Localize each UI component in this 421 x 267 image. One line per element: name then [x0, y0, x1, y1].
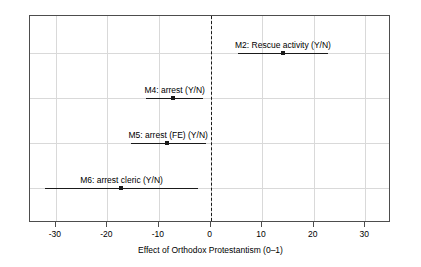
x-tick-label: 0: [207, 229, 212, 239]
x-tick-label: -10: [152, 229, 164, 239]
x-tick-label: 30: [359, 229, 368, 239]
x-tick-mark: [261, 222, 262, 227]
gridline-vertical: [56, 16, 57, 221]
x-tick-mark: [313, 222, 314, 227]
x-tick-mark: [158, 222, 159, 227]
coefficient-plot-figure: M2: Rescue activity (Y/N)M4: arrest (Y/N…: [0, 0, 421, 267]
x-tick-mark: [210, 222, 211, 227]
x-tick-label: 10: [256, 229, 265, 239]
x-axis-title: Effect of Orthodox Protestantism (0–1): [0, 245, 421, 256]
gridline-vertical: [107, 16, 108, 221]
x-tick-label: -20: [100, 229, 112, 239]
x-tick-mark: [364, 222, 365, 227]
estimate-label: M4: arrest (Y/N): [144, 85, 204, 95]
zero-reference-line: [211, 16, 212, 221]
x-tick-label: -30: [49, 229, 61, 239]
plot-area: M2: Rescue activity (Y/N)M4: arrest (Y/N…: [29, 15, 390, 222]
estimate-label: M5: arrest (FE) (Y/N): [129, 130, 208, 140]
gridline-horizontal: [30, 98, 389, 99]
x-tick-mark: [106, 222, 107, 227]
point-estimate-marker: [171, 96, 175, 100]
point-estimate-marker: [281, 51, 285, 55]
x-tick-label: 20: [308, 229, 317, 239]
x-tick-mark: [55, 222, 56, 227]
estimate-label: M2: Rescue activity (Y/N): [235, 40, 331, 50]
gridline-vertical: [365, 16, 366, 221]
gridline-horizontal: [30, 53, 389, 54]
point-estimate-marker: [165, 141, 169, 145]
estimate-label: M6: arrest cleric (Y/N): [80, 175, 163, 185]
point-estimate-marker: [119, 186, 123, 190]
gridline-vertical: [159, 16, 160, 221]
gridline-horizontal: [30, 143, 389, 144]
